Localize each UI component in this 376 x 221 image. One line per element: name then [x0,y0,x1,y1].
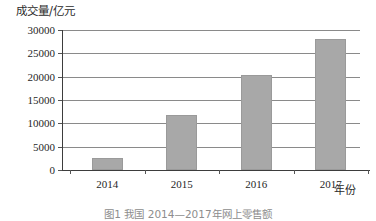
bar-2015 [166,115,197,170]
bar-2014 [92,158,123,170]
y-axis-title: 成交量/亿元 [16,2,75,18]
y-tick-label: 5000 [33,141,55,153]
bar-2016 [241,75,272,170]
y-tick-label: 30000 [28,24,56,36]
y-axis-spine [62,30,63,170]
figure-caption: 图1 我国 2014—2017年网上零售额 [0,206,376,221]
gridline [62,30,360,31]
y-tick-label: 10000 [28,117,56,129]
x-axis-title: 年份 [334,181,356,197]
y-tick-label: 20000 [28,71,56,83]
x-tick-mark [219,170,220,174]
x-tick-mark [145,170,146,174]
x-tick-mark [294,170,295,174]
x-tick-label-2015: 2015 [171,178,193,190]
x-axis-spine [62,170,370,171]
x-tick-label-2016: 2016 [245,178,267,190]
x-tick-mark [70,170,71,174]
x-tick-mark [368,170,369,174]
bar-chart-figure: 成交量/亿元 050001000015000200002500030000 20… [0,0,376,221]
bar-2017 [315,39,346,170]
y-tick-label: 25000 [28,47,56,59]
x-tick-label-2014: 2014 [96,178,118,190]
y-tick-label: 15000 [28,94,56,106]
plot-area: 050001000015000200002500030000 201420152… [62,30,360,170]
y-tick-label: 0 [50,164,56,176]
